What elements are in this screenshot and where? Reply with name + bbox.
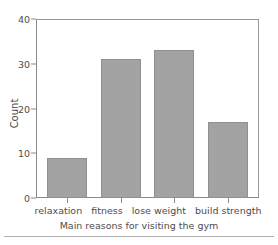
x-tick-label: relaxation bbox=[35, 205, 83, 216]
x-tick-label: lose weight bbox=[132, 205, 186, 216]
x-tick-mark bbox=[47, 198, 87, 204]
y-axis-label: Count bbox=[9, 84, 20, 144]
x-tick-mark bbox=[101, 198, 141, 204]
bar bbox=[101, 59, 141, 198]
y-tick-label: 10 bbox=[18, 148, 30, 159]
x-tick-label: build strength bbox=[195, 205, 261, 216]
x-tick-mark bbox=[154, 198, 194, 204]
y-tick-label: 20 bbox=[18, 103, 30, 114]
x-axis-tick-marks bbox=[36, 198, 259, 204]
y-tick-mark bbox=[31, 63, 36, 64]
y-tick-mark bbox=[31, 198, 36, 199]
bar bbox=[47, 158, 87, 198]
x-tick-mark bbox=[208, 198, 248, 204]
bar-chart-figure: 010203040 Count relaxationfitnesslose we… bbox=[0, 0, 278, 245]
y-tick-label: 40 bbox=[18, 14, 30, 25]
y-tick-mark bbox=[31, 153, 36, 154]
x-tick-label: fitness bbox=[91, 205, 122, 216]
x-axis-label: Main reasons for visiting the gym bbox=[0, 220, 278, 231]
bar bbox=[208, 122, 248, 198]
bottom-rule bbox=[4, 236, 274, 237]
y-tick-mark bbox=[31, 108, 36, 109]
bars-container bbox=[36, 19, 259, 198]
y-tick-mark bbox=[31, 19, 36, 20]
x-axis-tick-labels: relaxationfitnesslose weightbuild streng… bbox=[30, 205, 266, 216]
y-tick-label: 30 bbox=[18, 58, 30, 69]
bar bbox=[154, 50, 194, 198]
y-tick-label: 0 bbox=[24, 193, 30, 204]
